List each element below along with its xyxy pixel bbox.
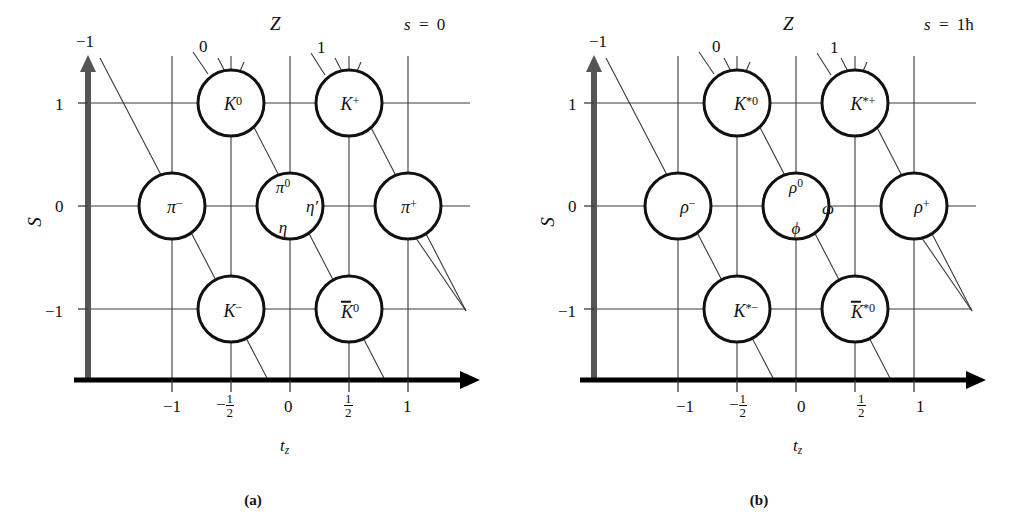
particle-K0-symbol: K xyxy=(224,94,236,114)
particle-label-omega: ω xyxy=(822,200,834,217)
x-tick-label-b-0: 0 xyxy=(797,398,806,415)
y-tick-label-b-neg1: −1 xyxy=(558,303,576,320)
z-tick-label-b-neg1: −1 xyxy=(589,33,607,50)
particle-piminus-superscript: − xyxy=(176,197,183,211)
x-tick-label-a-neg1: −1 xyxy=(163,398,181,415)
caption-a: (a) xyxy=(244,492,262,509)
particle-piplus-symbol: π xyxy=(401,197,410,217)
particle-Kbar0-superscript: 0 xyxy=(353,301,359,315)
particle-Kbar0-symbol: K xyxy=(341,302,353,320)
particle-rhominus-superscript: − xyxy=(689,197,696,211)
figure-root: Z s = 0 −1 0 1 S 1 0 −1 −1 −12 0 12 1 tz xyxy=(0,0,1012,526)
particle-rhoplus-superscript: + xyxy=(923,197,930,211)
z-axis-label-a: Z xyxy=(270,14,281,33)
particle-label-K0: K0 xyxy=(224,95,242,114)
spin-label-b-eq: = xyxy=(939,15,949,34)
panel-a: Z s = 0 −1 0 1 S 1 0 −1 −1 −12 0 12 1 tz xyxy=(0,0,506,526)
particle-Kbarstar0-superscript: *0 xyxy=(863,301,875,315)
panel-b: Z s = 1ħ −1 0 1 S 1 0 −1 −1 −12 0 12 1 t… xyxy=(506,0,1012,526)
particle-label-Kminus: K− xyxy=(224,302,243,321)
particle-Kminus-symbol: K xyxy=(224,301,236,321)
panel-a-graphics xyxy=(0,0,506,526)
z-tick-label-a-0: 0 xyxy=(199,38,208,55)
spin-label-b-s: s xyxy=(924,15,931,34)
z-tick-label-a-neg1: −1 xyxy=(76,33,94,50)
particle-label-Kbar0: K0 xyxy=(341,302,359,321)
caption-b: (b) xyxy=(750,492,768,509)
particle-label-Kplus: K+ xyxy=(341,95,360,114)
particle-label-rho0: ρ0 xyxy=(789,178,803,195)
particle-pi0-superscript: 0 xyxy=(284,177,290,190)
y-tick-label-a-1: 1 xyxy=(55,96,64,113)
z-tick-label-a-1: 1 xyxy=(317,39,326,56)
z-axis-label-b: Z xyxy=(783,14,794,33)
spin-label-a-s: s xyxy=(404,15,411,34)
particle-Kplus-symbol: K xyxy=(341,94,353,114)
x-tick-b-half-num: 1 xyxy=(857,392,866,406)
particle-piplus-superscript: + xyxy=(410,197,417,211)
overline-bar xyxy=(341,301,351,302)
y-tick-label-a-0: 0 xyxy=(55,198,64,215)
x-tick-a-half-num: 1 xyxy=(344,392,353,406)
x-tick-label-a-neghalf: −12 xyxy=(216,392,234,420)
particle-label-pi0: π0 xyxy=(276,178,290,195)
particle-label-rhominus: ρ− xyxy=(680,198,696,217)
particle-Kstarplus-superscript: *+ xyxy=(862,94,875,108)
particle-Kbarstar0-symbol: K xyxy=(851,302,863,320)
particle-rho0-symbol: ρ xyxy=(789,178,797,197)
particle-Kstarminus-symbol: K xyxy=(733,301,745,321)
particle-label-Kbarstar0: K*0 xyxy=(851,302,875,321)
particle-K0-superscript: 0 xyxy=(236,94,242,108)
particle-label-piminus: π− xyxy=(167,198,183,217)
x-tick-label-a-1: 1 xyxy=(403,398,412,415)
particle-rhoplus-symbol: ρ xyxy=(914,197,923,217)
particle-Kbarstar0-letter: K xyxy=(851,301,863,321)
x-axis-label-a-z: z xyxy=(285,444,290,457)
x-tick-b-neghalf-num: 1 xyxy=(739,392,748,406)
x-axis-label-b-z: z xyxy=(798,444,803,457)
y-tick-label-a-neg1: −1 xyxy=(45,303,63,320)
particle-label-phi: ϕ xyxy=(792,220,801,237)
spin-label-a: s = 0 xyxy=(404,16,445,33)
x-axis-label-b: tz xyxy=(793,437,802,457)
x-tick-label-a-0: 0 xyxy=(284,398,293,415)
x-axis-label-a: tz xyxy=(280,437,289,457)
particle-Kstarplus-symbol: K xyxy=(850,94,862,114)
y-axis-label-a: S xyxy=(25,217,44,227)
spin-label-a-value: 0 xyxy=(437,15,446,34)
particle-label-eta: η xyxy=(279,219,287,236)
spin-label-b-value: 1ħ xyxy=(957,15,974,34)
x-tick-label-b-half: 12 xyxy=(857,392,866,420)
y-tick-label-b-1: 1 xyxy=(568,96,577,113)
particle-label-rhoplus: ρ+ xyxy=(914,198,930,217)
x-tick-a-half-den: 2 xyxy=(344,406,353,419)
x-tick-label-b-neghalf: −12 xyxy=(729,392,747,420)
particle-pi0-symbol: π xyxy=(276,178,285,197)
particle-Kbar0-letter: K xyxy=(341,301,353,321)
panel-b-graphics xyxy=(506,0,1012,526)
particle-Kminus-superscript: − xyxy=(236,301,243,315)
y-tick-label-b-0: 0 xyxy=(568,198,577,215)
x-tick-a-neghalf-den: 2 xyxy=(226,406,235,419)
y-axis-label-b: S xyxy=(538,217,557,227)
z-tick-label-b-1: 1 xyxy=(830,39,839,56)
particle-piminus-symbol: π xyxy=(167,197,176,217)
particle-rho0-superscript: 0 xyxy=(797,177,803,190)
z-tick-label-b-0: 0 xyxy=(712,38,721,55)
particle-label-Kstarplus: K*+ xyxy=(850,95,875,114)
x-tick-a-neghalf-sign: − xyxy=(216,395,226,414)
particle-Kstar0-superscript: *0 xyxy=(746,94,758,108)
particle-label-etaprime: η′ xyxy=(306,198,318,215)
x-tick-b-neghalf-den: 2 xyxy=(739,406,748,419)
x-tick-b-half-den: 2 xyxy=(857,406,866,419)
overline-bar xyxy=(851,301,861,302)
spin-label-b: s = 1ħ xyxy=(924,16,974,33)
spin-label-a-eq: = xyxy=(419,15,429,34)
particle-rhominus-symbol: ρ xyxy=(680,197,689,217)
particle-label-Kstarminus: K*− xyxy=(733,302,758,321)
particle-Kstar0-symbol: K xyxy=(734,94,746,114)
x-tick-b-neghalf-sign: − xyxy=(729,395,739,414)
particle-label-piplus: π+ xyxy=(401,198,417,217)
x-tick-a-neghalf-num: 1 xyxy=(226,392,235,406)
x-tick-label-a-half: 12 xyxy=(344,392,353,420)
